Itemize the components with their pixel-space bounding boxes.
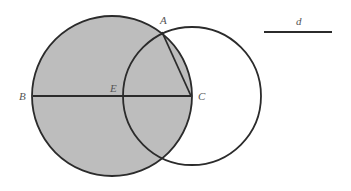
label-C: C (198, 90, 206, 102)
label-E: E (109, 82, 117, 94)
geometry-diagram: A B C E d (0, 0, 351, 191)
label-d: d (296, 15, 302, 27)
label-B: B (19, 90, 26, 102)
label-A: A (159, 14, 167, 26)
